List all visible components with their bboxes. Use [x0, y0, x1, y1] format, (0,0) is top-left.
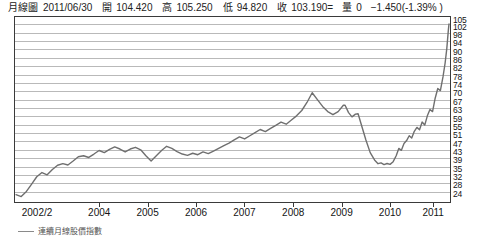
x-axis-tick-label: 2005 — [136, 207, 158, 219]
volume-label: 量 — [342, 2, 352, 13]
x-axis-tick-label: 2004 — [88, 207, 110, 219]
y-axis-tick-label: 24 — [453, 190, 462, 199]
volume-value: 0 — [356, 2, 362, 13]
x-axis-tick-label: 2010 — [379, 207, 401, 219]
open-label: 開 — [102, 2, 112, 13]
quote-header: 月線圖 2011/06/30 開 104.420 高 105.250 低 94.… — [0, 0, 484, 15]
chart-plot-area — [14, 16, 451, 203]
x-axis-labels: 2002/220042005200620072008200920102011 — [14, 203, 451, 219]
close-label: 收 — [277, 2, 287, 13]
low-label: 低 — [223, 2, 233, 13]
high-label: 高 — [162, 2, 172, 13]
price-line-series — [15, 17, 450, 202]
legend-line-swatch-icon — [18, 231, 34, 233]
open-value: 104.420 — [116, 2, 152, 13]
high-value: 105.250 — [176, 2, 212, 13]
chart-type-label: 月線圖 — [8, 2, 38, 13]
quote-date: 2011/06/30 — [43, 2, 92, 13]
low-value: 94.820 — [237, 2, 268, 13]
x-axis-tick-label: 2006 — [185, 207, 207, 219]
chart-legend: 連續月線股價指數 — [18, 227, 102, 236]
change-value: −1.450(-1.39% ) — [371, 2, 443, 13]
legend-series-label: 連續月線股價指數 — [38, 227, 102, 236]
x-axis-tick-label: 2009 — [330, 207, 352, 219]
x-axis-tick-label: 2008 — [282, 207, 304, 219]
x-axis-tick-label: 2007 — [233, 207, 255, 219]
plot-inner — [15, 17, 450, 202]
x-axis-tick-label: 2011 — [422, 207, 444, 219]
stock-chart-page: 月線圖 2011/06/30 開 104.420 高 105.250 低 94.… — [0, 0, 484, 237]
y-axis-labels: 1051029894908682787470676359555147433935… — [453, 16, 484, 203]
close-value: 103.190= — [291, 2, 333, 13]
x-axis-tick-label: 2002/2 — [22, 207, 53, 219]
